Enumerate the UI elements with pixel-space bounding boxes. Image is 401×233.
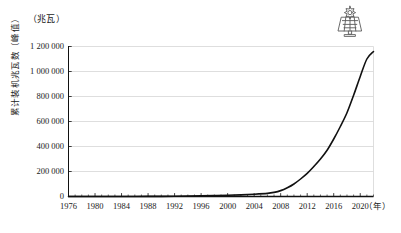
solar-capacity-chart: （兆瓦） 累计装机兆瓦数（峰值） 0200 000400 000600 0008…	[0, 0, 401, 233]
gridlines	[69, 47, 374, 197]
data-series-line	[69, 52, 374, 197]
solar-panel-icon	[330, 3, 370, 43]
